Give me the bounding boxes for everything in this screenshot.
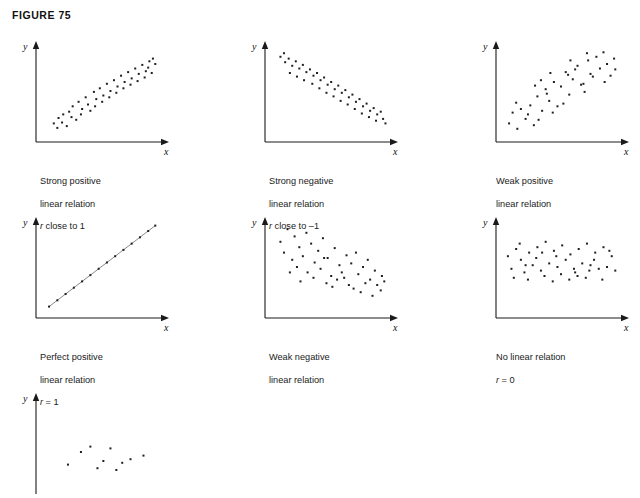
scatter-svg: y bbox=[14, 382, 184, 498]
scatter-svg: yx bbox=[243, 30, 413, 162]
panel-weak-negative: yx Weak negative linear relation bbox=[243, 206, 453, 386]
scatter-svg: yx bbox=[474, 206, 640, 338]
svg-text:y: y bbox=[22, 393, 28, 404]
scatter-plot-no-relation: yx bbox=[474, 206, 640, 338]
panel-weak-positive: yx Weak positive linear relation bbox=[474, 30, 640, 210]
svg-text:y: y bbox=[22, 217, 28, 228]
panel-clipped-bottom: y bbox=[14, 382, 224, 498]
scatter-plot-weak-positive: yx bbox=[474, 30, 640, 162]
svg-text:x: x bbox=[623, 146, 629, 157]
panel-no-relation: yx No linear relation r = 0 bbox=[474, 206, 640, 397]
caption-line-1: No linear relation bbox=[496, 352, 565, 362]
svg-text:x: x bbox=[163, 322, 169, 333]
svg-text:y: y bbox=[251, 217, 257, 228]
scatter-plot-perfect-positive: yx bbox=[14, 206, 184, 338]
figure-title: FIGURE 75 bbox=[12, 9, 71, 21]
svg-text:x: x bbox=[163, 146, 169, 157]
caption-line-1: Perfect positive bbox=[40, 352, 103, 362]
caption-line-2: linear relation bbox=[269, 375, 324, 385]
scatter-svg: yx bbox=[14, 30, 184, 162]
scatter-plot-strong-negative: yx bbox=[243, 30, 413, 162]
svg-text:y: y bbox=[251, 41, 257, 52]
scatter-plot-weak-negative: yx bbox=[243, 206, 413, 338]
svg-text:x: x bbox=[392, 146, 398, 157]
scatter-svg: yx bbox=[243, 206, 413, 338]
scatter-svg: yx bbox=[474, 30, 640, 162]
caption-no-relation: No linear relation r = 0 bbox=[496, 341, 640, 397]
scatter-plot-clipped: y bbox=[14, 382, 184, 498]
caption-weak-negative: Weak negative linear relation bbox=[269, 341, 453, 386]
svg-text:x: x bbox=[623, 322, 629, 333]
caption-line-1: Strong positive bbox=[40, 176, 101, 186]
svg-text:y: y bbox=[22, 41, 28, 52]
svg-text:y: y bbox=[482, 41, 488, 52]
caption-line-1: Strong negative bbox=[269, 176, 333, 186]
caption-line-1: Weak positive bbox=[496, 176, 553, 186]
scatter-plot-strong-positive: yx bbox=[14, 30, 184, 162]
caption-line-1: Weak negative bbox=[269, 352, 330, 362]
svg-text:y: y bbox=[482, 217, 488, 228]
scatter-svg: yx bbox=[14, 206, 184, 338]
svg-text:x: x bbox=[392, 322, 398, 333]
caption-r-value: r = 0 bbox=[496, 375, 640, 386]
caption-weak-positive: Weak positive linear relation bbox=[496, 165, 640, 210]
